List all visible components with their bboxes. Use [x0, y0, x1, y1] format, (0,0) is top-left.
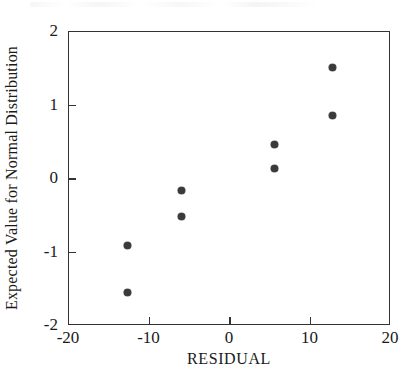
data-point: [271, 165, 278, 172]
data-point: [329, 112, 336, 119]
x-tick-label-20: 20: [360, 328, 414, 347]
data-point: [178, 213, 185, 220]
x-tick-label-0: 0: [199, 328, 259, 347]
x-axis-title: RESIDUAL: [68, 350, 390, 368]
data-points-layer: [69, 32, 389, 324]
x-tick-label-minus-20: -20: [38, 328, 98, 347]
y-tick-label-2: 2: [0, 21, 58, 40]
y-tick-label-minus-1: -1: [0, 242, 58, 261]
scan-artifact: [30, 2, 320, 7]
y-tick-label-1: 1: [0, 95, 58, 114]
x-tick-label-10: 10: [280, 328, 340, 347]
normal-probability-plot-figure: Expected Value for Normal Distribution 2…: [0, 0, 414, 378]
plot-area: [68, 31, 390, 325]
data-point: [329, 64, 336, 71]
data-point: [271, 141, 278, 148]
data-point: [178, 187, 185, 194]
data-point: [124, 242, 131, 249]
y-tick-label-0: 0: [0, 168, 58, 187]
data-point: [124, 289, 131, 296]
x-tick-label-minus-10: -10: [119, 328, 179, 347]
